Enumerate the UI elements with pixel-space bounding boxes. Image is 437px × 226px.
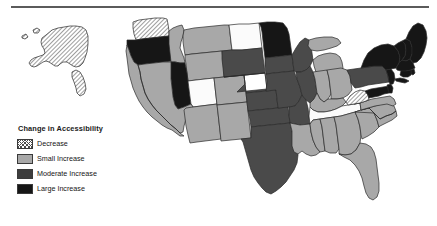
state-ID (169, 25, 185, 63)
state-AZ (184, 104, 221, 143)
state-KS (246, 90, 278, 111)
figure-panel: Change in Accessibility Decrease Small I… (0, 0, 437, 226)
legend-item-large-increase: Large Increase (17, 183, 135, 194)
legend-item-moderate-increase: Moderate Increase (17, 168, 135, 179)
state-PA (347, 66, 389, 88)
state-AK (22, 26, 88, 96)
legend-title: Change in Accessibility (18, 124, 135, 133)
state-RI (411, 69, 415, 75)
state-NY (361, 44, 400, 70)
legend-item-small-increase: Small Increase (17, 153, 135, 164)
legend-swatch-large-increase (17, 184, 33, 194)
legend-label-moderate-increase: Moderate Increase (37, 169, 97, 179)
state-ND (229, 23, 262, 50)
legend-item-decrease: Decrease (17, 138, 135, 149)
state-NY-long-island (395, 78, 409, 83)
state-WY (185, 51, 224, 81)
state-NM (217, 102, 251, 141)
state-SD (222, 48, 265, 77)
map-legend: Change in Accessibility Decrease Small I… (17, 124, 135, 198)
legend-swatch-decrease (17, 139, 33, 149)
legend-label-decrease: Decrease (37, 139, 68, 149)
legend-label-small-increase: Small Increase (37, 154, 85, 164)
state-UT (188, 78, 217, 107)
state-CT (400, 70, 411, 77)
state-MN (259, 22, 292, 58)
legend-swatch-small-increase (17, 154, 33, 164)
state-OR (127, 36, 172, 65)
legend-swatch-moderate-increase (17, 169, 33, 179)
legend-label-large-increase: Large Increase (37, 184, 85, 194)
